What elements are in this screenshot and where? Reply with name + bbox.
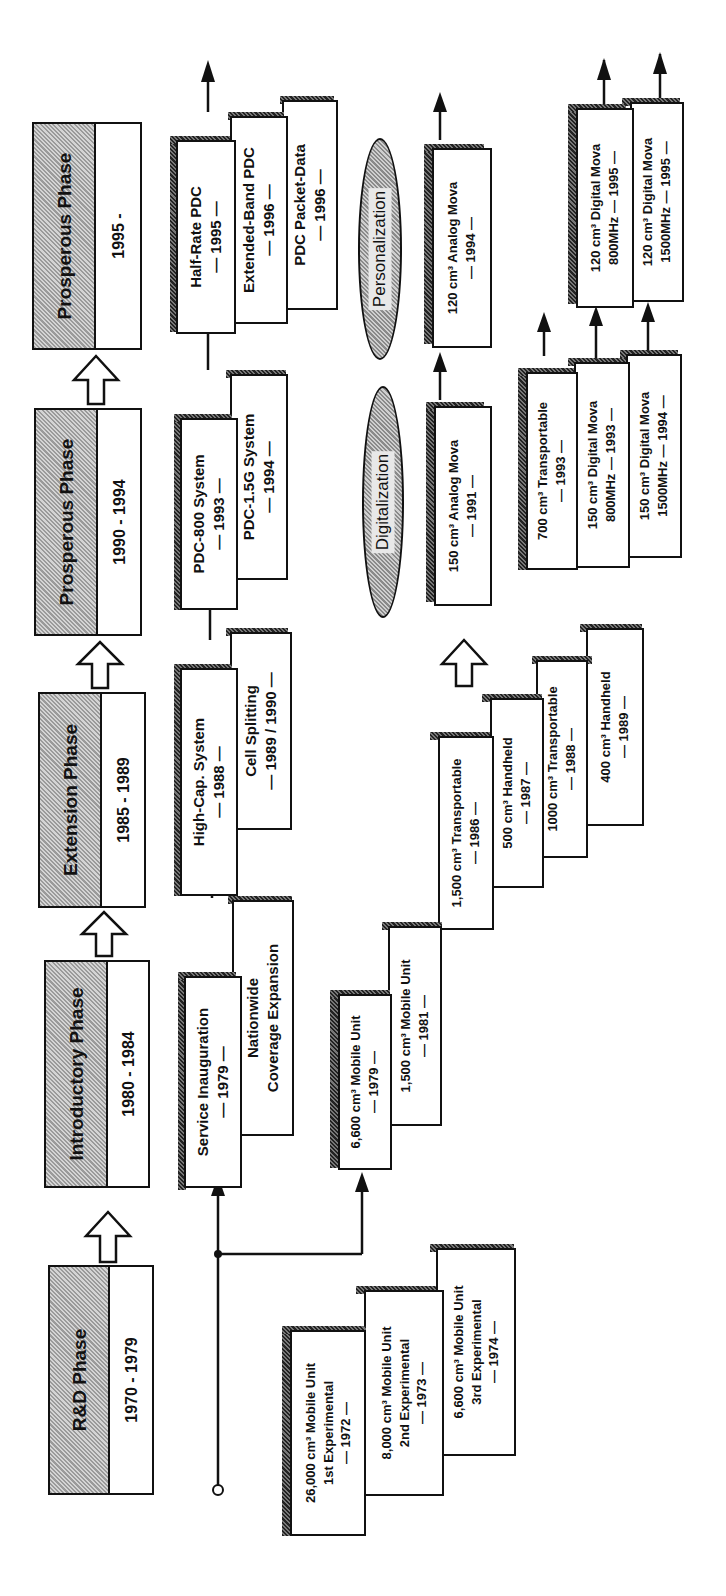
- trend-label: Personalization: [369, 188, 392, 310]
- box-line: 150 cm³ Analog Mova: [445, 440, 463, 572]
- box-line: — 1991 —: [463, 440, 481, 572]
- arrowhead-icon: [537, 312, 551, 332]
- box-line: — 1979 —: [365, 1016, 383, 1149]
- box-line: — 1979 —: [213, 1008, 233, 1156]
- box-line: 8,000 cm³ Mobile Unit: [378, 1327, 396, 1460]
- experimental-unit-1: 26,000 cm³ Mobile Unit1st Experimental— …: [290, 1330, 366, 1536]
- arrowhead-icon: [589, 306, 603, 326]
- system-pdc-800: PDC-800 System— 1993 —: [180, 418, 238, 610]
- box-line: 800MHz — 1993 —: [602, 401, 620, 530]
- system-pdc-packet-data: PDC Packet-Data— 1996 —: [282, 100, 338, 310]
- box-line: — 1981 —: [415, 960, 433, 1093]
- digital-mova-120cc-1500mhz: 120 cm³ Digital Mova1500MHz — 1995 —: [630, 102, 684, 302]
- digital-mova-120cc-800mhz: 120 cm³ Digital Mova800MHz — 1995 —: [576, 108, 634, 308]
- block-arrow-icon: [86, 1212, 130, 1262]
- arrowhead-icon: [597, 58, 611, 80]
- box-line: 700 cm³ Transportable: [534, 402, 552, 540]
- system-pdc-1-5g: PDC-1.5G System— 1994 —: [230, 374, 288, 580]
- system-high-cap: High-Cap. System— 1988 —: [180, 668, 238, 896]
- box-line: 1st Experimental: [319, 1363, 337, 1503]
- box-line: — 1996 —: [310, 144, 330, 266]
- box-line: Service Inauguration: [193, 1008, 213, 1156]
- box-line: — 1988 —: [562, 686, 580, 831]
- box-line: 1500MHz — 1995 —: [657, 138, 675, 267]
- arrowhead-icon: [355, 1172, 369, 1192]
- block-arrow-icon: [442, 640, 486, 686]
- arrowhead-icon: [201, 60, 215, 82]
- box-line: 150 cm³ Digital Mova: [584, 401, 602, 530]
- box-line: 400 cm³ Handheld: [597, 671, 615, 782]
- box-line: — 1973 —: [413, 1327, 431, 1460]
- trend-personalization: Personalization: [358, 138, 402, 360]
- digital-mova-150cc-800mhz: 150 cm³ Digital Mova800MHz — 1993 —: [574, 362, 630, 568]
- box-line: Half-Rate PDC: [186, 186, 206, 288]
- box-line: — 1993 —: [552, 402, 570, 540]
- box-line: 800MHz — 1995 —: [605, 144, 623, 273]
- experimental-unit-2: 8,000 cm³ Mobile Unit2nd Experimental— 1…: [364, 1290, 444, 1496]
- digital-700cc-transportable: 700 cm³ Transportable— 1993 —: [526, 372, 578, 570]
- terminal-6600cc-mobile-unit: 6,600 cm³ Mobile Unit— 1979 —: [338, 994, 392, 1170]
- box-line: Nationwide: [243, 944, 263, 1092]
- box-line: 26,000 cm³ Mobile Unit: [302, 1363, 320, 1503]
- system-cell-splitting: Cell Splitting— 1989 / 1990 —: [230, 632, 292, 830]
- box-line: PDC-1.5G System: [239, 414, 259, 541]
- box-line: 2nd Experimental: [395, 1327, 413, 1460]
- block-arrow-icon: [82, 912, 126, 956]
- junction-node-icon: [214, 1250, 222, 1258]
- box-line: Coverage Expansion: [263, 944, 283, 1092]
- box-line: 120 cm³ Analog Mova: [444, 182, 462, 314]
- system-extended-band-pdc: Extended-Band PDC— 1996 —: [230, 116, 288, 324]
- arrowhead-icon: [433, 92, 447, 112]
- terminal-1500cc-transportable: 1,500 cm³ Transportable— 1986 —: [438, 736, 494, 930]
- block-arrow-icon: [78, 642, 122, 688]
- box-line: — 1988 —: [209, 718, 229, 846]
- digital-mova-150cc-1500mhz: 150 cm³ Digital Mova1500MHz — 1994 —: [626, 354, 682, 558]
- terminal-400cc-handheld: 400 cm³ Handheld— 1989 —: [586, 628, 644, 826]
- system-half-rate-pdc: Half-Rate PDC— 1995 —: [176, 140, 236, 334]
- box-line: 6,600 cm³ Mobile Unit: [450, 1286, 468, 1419]
- box-line: — 1989 —: [615, 671, 633, 782]
- box-line: 120 cm³ Digital Mova: [587, 144, 605, 273]
- box-line: — 1994 —: [462, 182, 480, 314]
- box-line: PDC Packet-Data: [290, 144, 310, 266]
- box-line: — 1972 —: [337, 1363, 355, 1503]
- system-service-inauguration: Service Inauguration— 1979 —: [184, 976, 242, 1188]
- box-line: 150 cm³ Digital Mova: [636, 392, 654, 521]
- box-line: — 1995 —: [206, 186, 226, 288]
- block-arrow-icon: [74, 356, 118, 404]
- box-line: 120 cm³ Digital Mova: [639, 138, 657, 267]
- box-line: — 1993 —: [209, 454, 229, 573]
- box-line: 6,600 cm³ Mobile Unit: [347, 1016, 365, 1149]
- box-line: 3rd Experimental: [467, 1286, 485, 1419]
- arrowhead-icon: [641, 302, 655, 322]
- box-line: — 1996 —: [259, 147, 279, 293]
- box-line: 500 cm³ Handheld: [499, 737, 517, 848]
- arrowhead-icon: [653, 52, 667, 74]
- box-line: — 1987 —: [517, 737, 535, 848]
- analog-mova-120cc: 120 cm³ Analog Mova— 1994 —: [432, 148, 492, 348]
- terminal-1500cc-mobile-unit: 1,500 cm³ Mobile Unit— 1981 —: [388, 926, 442, 1126]
- box-line: PDC-800 System: [189, 454, 209, 573]
- box-line: — 1989 / 1990 —: [261, 672, 281, 790]
- box-line: 1,500 cm³ Mobile Unit: [397, 960, 415, 1093]
- box-line: — 1986 —: [466, 759, 484, 908]
- terminal-500cc-handheld: 500 cm³ Handheld— 1987 —: [490, 698, 544, 888]
- box-line: — 1994 —: [259, 414, 279, 541]
- trend-label: Digitalization: [372, 451, 395, 553]
- box-line: 1,500 cm³ Transportable: [448, 759, 466, 908]
- box-line: — 1974 —: [485, 1286, 503, 1419]
- box-line: 1500MHz — 1994 —: [654, 392, 672, 521]
- box-line: High-Cap. System: [189, 718, 209, 846]
- analog-mova-150cc: 150 cm³ Analog Mova— 1991 —: [434, 406, 492, 606]
- start-node-icon: [213, 1485, 223, 1495]
- arrowhead-icon: [433, 352, 447, 372]
- box-line: 1000 cm³ Transportable: [544, 686, 562, 831]
- box-line: Extended-Band PDC: [239, 147, 259, 293]
- box-line: Cell Splitting: [241, 672, 261, 790]
- trend-digitalization: Digitalization: [362, 386, 404, 618]
- experimental-unit-3: 6,600 cm³ Mobile Unit3rd Experimental— 1…: [436, 1248, 516, 1456]
